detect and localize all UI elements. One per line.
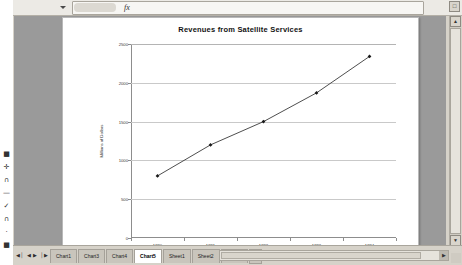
left-toolbar-strip: ■✛∩—✓∩·■ bbox=[0, 0, 13, 265]
x-tick-mark bbox=[290, 238, 291, 241]
arch-icon[interactable]: ∩ bbox=[2, 215, 11, 224]
name-box[interactable] bbox=[57, 2, 70, 13]
plot-area[interactable]: 05001000150020002500 1990199119921993199… bbox=[131, 44, 396, 238]
y-tick-label: 2000 bbox=[102, 80, 128, 85]
sheet-tab-bar: ◀│ ◀ ▶ │▶ Chart1Chart3Chart4Chart5Sheet1… bbox=[13, 245, 462, 265]
y-tick-label: 2500 bbox=[102, 42, 128, 47]
y-axis-title: Millions of Dollars bbox=[99, 125, 104, 158]
formula-bar-input[interactable]: fx bbox=[72, 1, 424, 15]
x-tick-mark bbox=[343, 238, 344, 241]
tab-nav-first-icon[interactable]: ◀│ bbox=[16, 253, 23, 258]
excel-chart-window: ■✛∩—✓∩·■ fx □ Revenues from Satellite Se… bbox=[0, 0, 462, 265]
x-tick-mark bbox=[237, 238, 238, 241]
scroll-up-icon[interactable]: ▲ bbox=[450, 16, 461, 27]
horizontal-scrollbar[interactable]: ▶ bbox=[219, 250, 449, 261]
sheet-tab-chart1[interactable]: Chart1 bbox=[50, 249, 77, 263]
chevron-down-icon[interactable] bbox=[60, 6, 66, 9]
vertical-scroll-thumb[interactable] bbox=[450, 28, 461, 234]
horizontal-scroll-thumb[interactable] bbox=[221, 252, 421, 259]
square-marker-icon[interactable]: ■ bbox=[2, 241, 11, 250]
sheet-tab-sheet2[interactable]: Sheet2 bbox=[192, 249, 220, 263]
y-tick-label: 500 bbox=[102, 197, 128, 202]
y-tick-label: 1500 bbox=[102, 119, 128, 124]
x-tick-mark bbox=[396, 238, 397, 241]
chart-sheet[interactable]: Revenues from Satellite Services 0500100… bbox=[62, 17, 419, 247]
square-marker-icon[interactable]: ■ bbox=[2, 150, 11, 159]
scroll-right-icon[interactable]: ▶ bbox=[439, 251, 448, 260]
formula-bar-pill bbox=[74, 3, 116, 12]
restore-window-icon[interactable]: □ bbox=[449, 1, 460, 12]
tab-navigation-buttons[interactable]: ◀│ ◀ ▶ │▶ bbox=[15, 250, 49, 261]
dot-icon[interactable]: · bbox=[2, 228, 11, 237]
vertical-scrollbar[interactable]: ▲ ▼ bbox=[449, 16, 461, 246]
tab-nav-last-icon[interactable]: │▶ bbox=[40, 253, 47, 258]
application-window: fx □ Revenues from Satellite Services 05… bbox=[13, 0, 462, 265]
sheet-tab-sheet1[interactable]: Sheet1 bbox=[163, 249, 191, 263]
x-tick-mark bbox=[184, 238, 185, 241]
data-point-marker[interactable] bbox=[156, 174, 160, 178]
sheet-tab-chart5[interactable]: Chart5 bbox=[134, 249, 162, 263]
data-point-marker[interactable] bbox=[262, 120, 266, 124]
x-tick-mark bbox=[131, 238, 132, 241]
fx-icon[interactable]: fx bbox=[124, 2, 138, 13]
bracket-icon[interactable]: ∩ bbox=[2, 176, 11, 185]
series-line[interactable] bbox=[158, 56, 370, 176]
y-tick-label: 0 bbox=[102, 236, 128, 241]
sheet-tab-chart3[interactable]: Chart3 bbox=[78, 249, 105, 263]
formula-bar-row: fx □ bbox=[13, 0, 462, 16]
crosshair-icon[interactable]: ✛ bbox=[2, 163, 11, 172]
dash-icon[interactable]: — bbox=[2, 189, 11, 198]
sheet-tab-chart4[interactable]: Chart4 bbox=[106, 249, 133, 263]
chart-title: Revenues from Satellite Services bbox=[63, 25, 418, 34]
tab-nav-next-icon[interactable]: ▶ bbox=[33, 253, 37, 258]
data-point-marker[interactable] bbox=[209, 143, 213, 147]
checkmark-icon[interactable]: ✓ bbox=[2, 202, 11, 211]
data-series-line[interactable] bbox=[131, 44, 396, 238]
tab-nav-prev-icon[interactable]: ◀ bbox=[27, 253, 31, 258]
y-tick-label: 1000 bbox=[102, 158, 128, 163]
resize-corner[interactable] bbox=[451, 253, 461, 263]
